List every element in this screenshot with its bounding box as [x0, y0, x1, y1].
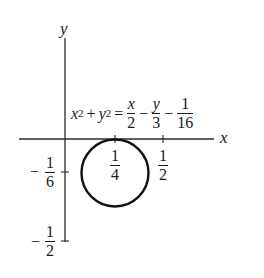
eq-frac-x-over-2: x 2 [127, 96, 135, 131]
eq-x-base: x [71, 105, 78, 123]
x-tick-quarter-denominator: 4 [111, 167, 119, 183]
x-tick-quarter-numerator: 1 [110, 148, 120, 164]
eq-y-exponent: 2 [106, 107, 112, 119]
eq-minus-2: − [164, 105, 173, 123]
eq-frac3-numerator: 1 [181, 96, 189, 112]
y-tick-neg-sixth-sign: − [30, 164, 39, 180]
y-tick-label-neg-half: 1 2 [45, 224, 55, 259]
y-tick-neg-half-numerator: 1 [45, 224, 55, 240]
eq-frac2-denominator: 3 [152, 115, 160, 131]
x-tick-half-denominator: 2 [159, 167, 167, 183]
x-tick-half-numerator: 1 [158, 148, 168, 164]
y-tick-label-neg-sixth: 1 6 [45, 155, 55, 190]
diagram-canvas: y x x2 + y2 = x 2 − y 3 − 1 16 1 4 1 2 [0, 0, 264, 278]
eq-frac1-numerator: x [128, 96, 135, 112]
eq-y-base: y [99, 105, 106, 123]
eq-frac-1-over-16: 1 16 [177, 96, 193, 131]
eq-frac3-denominator: 16 [177, 115, 193, 131]
eq-plus: + [87, 105, 96, 123]
y-tick-sixth-denominator: 6 [46, 174, 54, 190]
eq-frac2-numerator: y [153, 96, 160, 112]
eq-equals: = [114, 105, 123, 123]
y-axis-label: y [60, 20, 68, 37]
eq-frac-y-over-3: y 3 [152, 96, 160, 131]
x-axis-label: x [220, 129, 228, 146]
eq-minus-1: − [139, 105, 148, 123]
eq-frac1-denominator: 2 [127, 115, 135, 131]
x-tick-label-quarter: 1 4 [110, 148, 120, 183]
circle-equation: x2 + y2 = x 2 − y 3 − 1 16 [71, 96, 194, 131]
eq-x-exponent: 2 [78, 107, 84, 119]
y-tick-sixth-numerator: 1 [45, 155, 55, 171]
y-tick-neg-half-denominator: 2 [46, 243, 54, 259]
x-tick-label-half: 1 2 [158, 148, 168, 183]
y-tick-neg-half-sign: − [31, 234, 40, 250]
